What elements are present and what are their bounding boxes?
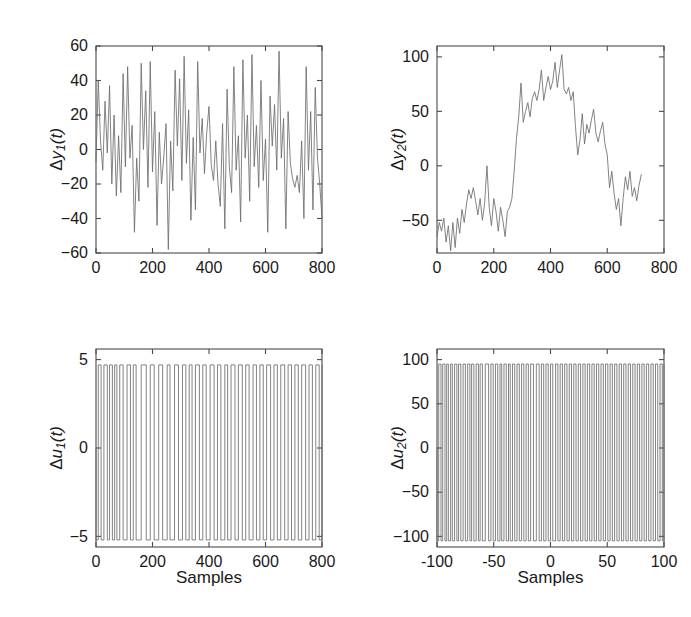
data-trace-dy2	[437, 55, 641, 251]
x-tick-label: 400	[537, 259, 564, 276]
y-axis-label: Δu2(t)	[388, 426, 409, 470]
x-tick-label: 800	[651, 259, 678, 276]
x-axis-label: Samples	[517, 568, 583, 587]
y-tick-label: 50	[411, 395, 429, 412]
svg-text:Δu1(t): Δu1(t)	[47, 426, 68, 470]
y-tick-label: −100	[393, 528, 429, 545]
svg-text:Δy1(t): Δy1(t)	[47, 128, 68, 171]
y-tick-label: 0	[420, 157, 429, 174]
x-tick-label: 600	[252, 553, 279, 570]
x-tick-label: 0	[92, 259, 101, 276]
y-tick-label: 0	[79, 141, 88, 158]
x-tick-label: 600	[594, 259, 621, 276]
y-tick-label: 0	[420, 439, 429, 456]
y-tick-label: 5	[79, 351, 88, 368]
x-tick-label: -50	[482, 553, 505, 570]
svg-text:Δu2(t): Δu2(t)	[388, 426, 409, 470]
y-tick-label: 100	[402, 351, 429, 368]
x-tick-label: 400	[196, 259, 223, 276]
axes-box	[437, 46, 664, 253]
y-tick-label: 40	[70, 72, 88, 89]
x-tick-label: 600	[252, 259, 279, 276]
data-trace-dy1	[96, 51, 322, 249]
x-tick-label: 0	[92, 553, 101, 570]
subplot-dy2: 0200400600800−50050100Δy2(t)	[375, 34, 676, 311]
figure-canvas: 0200400600800−60−40−200204060Δy1(t)02004…	[0, 0, 691, 617]
x-axis-label: Samples	[176, 568, 242, 587]
data-trace-du1	[96, 365, 322, 540]
subplot-du2: -100-50050100−100−50050100Δu2(t)Samples	[375, 337, 676, 605]
y-tick-label: 0	[79, 439, 88, 456]
y-tick-label: −50	[402, 483, 429, 500]
y-tick-label: 100	[402, 48, 429, 65]
data-trace-du2	[437, 364, 664, 541]
y-tick-label: −20	[61, 175, 88, 192]
y-tick-label: −50	[402, 212, 429, 229]
y-tick-label: 20	[70, 106, 88, 123]
x-tick-label: -100	[421, 553, 453, 570]
y-tick-label: −40	[61, 210, 88, 227]
subplot-dy1: 0200400600800−60−40−200204060Δy1(t)	[34, 34, 334, 311]
svg-text:Δy2(t): Δy2(t)	[388, 128, 409, 171]
y-tick-label: 60	[70, 37, 88, 54]
x-tick-label: 800	[309, 553, 336, 570]
subplot-du1: 0200400600800−505Δu1(t)Samples	[34, 337, 334, 605]
y-tick-label: −5	[70, 528, 88, 545]
x-tick-label: 50	[598, 553, 616, 570]
y-axis-label: Δu1(t)	[47, 426, 68, 470]
y-tick-label: −60	[61, 244, 88, 261]
y-axis-label: Δy2(t)	[388, 128, 409, 171]
y-axis-label: Δy1(t)	[47, 128, 68, 171]
x-tick-label: 200	[139, 553, 166, 570]
y-tick-label: 50	[411, 103, 429, 120]
x-tick-label: 0	[433, 259, 442, 276]
x-tick-label: 800	[309, 259, 336, 276]
x-tick-label: 200	[139, 259, 166, 276]
x-tick-label: 200	[480, 259, 507, 276]
x-tick-label: 100	[651, 553, 678, 570]
